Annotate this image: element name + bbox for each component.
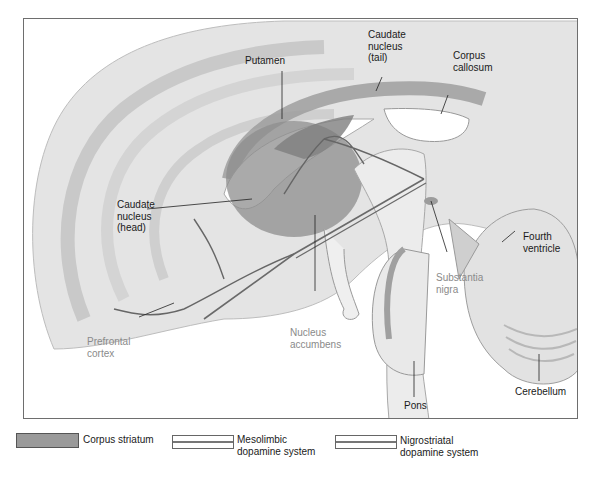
label-caudate-nucleus-tail: Caudate nucleus (tail) bbox=[368, 29, 406, 64]
label-corpus-callosum: Corpus callosum bbox=[453, 50, 492, 73]
legend-label-nigrostriatal: Nigrostriatal dopamine system bbox=[400, 435, 478, 458]
label-prefrontal-cortex: Prefrontal cortex bbox=[87, 336, 130, 359]
label-putamen: Putamen bbox=[245, 55, 285, 67]
brain-illustration bbox=[24, 19, 578, 419]
label-caudate-nucleus-head: Caudate nucleus (head) bbox=[117, 199, 155, 234]
legend-label-mesolimbic: Mesolimbic dopamine system bbox=[237, 434, 315, 457]
label-nucleus-accumbens: Nucleus accumbens bbox=[290, 327, 341, 350]
label-substantia-nigra: Substantia nigra bbox=[436, 272, 483, 295]
legend-swatch-nigrostriatal bbox=[335, 435, 397, 449]
label-fourth-ventricle: Fourth ventricle bbox=[523, 231, 560, 254]
legend-swatch-corpus-striatum bbox=[16, 433, 79, 448]
legend-swatch-mesolimbic bbox=[172, 435, 234, 449]
label-pons: Pons bbox=[404, 400, 427, 412]
legend-label-corpus-striatum: Corpus striatum bbox=[83, 434, 154, 446]
label-cerebellum: Cerebellum bbox=[515, 386, 566, 398]
